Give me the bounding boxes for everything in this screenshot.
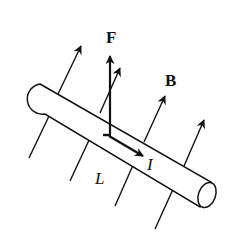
field-arrow-4 [184,120,204,166]
rod-body [27,84,211,207]
field-line-tail-2 [70,138,90,181]
field-arrow-3 [144,96,165,142]
length-label: L [94,169,104,188]
field-line-tail-3 [115,163,134,206]
force-label: F [106,28,116,47]
field-line-tail-4 [155,187,174,229]
field-label: B [165,71,176,90]
conductor-rod [27,84,219,210]
field-line-tail-1 [29,114,50,158]
field-arrow-1 [58,46,81,94]
force-on-wire-diagram: F B I L [0,0,235,246]
